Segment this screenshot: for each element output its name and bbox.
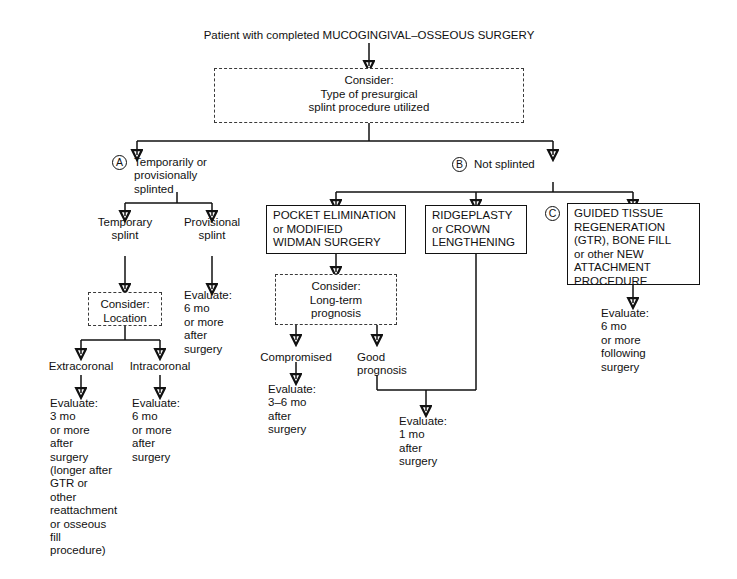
provisional-outcome-node: Evaluate: 6 mo or more after surgery bbox=[184, 289, 274, 356]
flowchart-canvas: Patient with completed MUCOGINGIVAL–OSSE… bbox=[0, 0, 737, 579]
good-prognosis-node: Good prognosis bbox=[357, 351, 427, 378]
branch-marker-b: B bbox=[452, 157, 467, 172]
gtr-outcome-node: Evaluate: 6 mo or more following surgery bbox=[601, 307, 695, 374]
page-title: Patient with completed MUCOGINGIVAL–OSSE… bbox=[159, 29, 579, 42]
branch-marker-a: A bbox=[112, 155, 127, 170]
temporary-splint-node: Temporary splint bbox=[82, 216, 168, 243]
provisional-splint-node: Provisional splint bbox=[169, 216, 255, 243]
consider-location-box: Consider: Location bbox=[88, 292, 162, 326]
intracoronal-outcome-node: Evaluate: 6 mo or more after surgery bbox=[132, 397, 224, 464]
merged-outcome-node: Evaluate: 1 mo after surgery bbox=[399, 415, 485, 469]
ridgeplasty-box: RIDGEPLASTY or CROWN LENGTHENING bbox=[425, 205, 527, 254]
intracoronal-node: Intracoronal bbox=[112, 360, 208, 373]
root-consider-box: Consider: Type of presurgical splint pro… bbox=[214, 68, 524, 123]
pocket-elimination-box: POCKET ELIMINATION or MODIFIED WIDMAN SU… bbox=[266, 205, 406, 254]
compromised-node: Compromised bbox=[253, 351, 339, 364]
compromised-outcome-node: Evaluate: 3–6 mo after surgery bbox=[268, 383, 354, 437]
branch-b-label: Not splinted bbox=[474, 158, 584, 171]
gtr-box: GUIDED TISSUE REGENERATION (GTR), BONE F… bbox=[567, 203, 700, 285]
branch-a-label: Temporarily or provisionally splinted bbox=[134, 156, 254, 196]
pocket-consider-box: Consider: Long-term prognosis bbox=[275, 274, 397, 325]
branch-marker-c: C bbox=[545, 206, 560, 221]
